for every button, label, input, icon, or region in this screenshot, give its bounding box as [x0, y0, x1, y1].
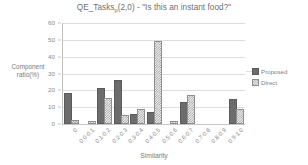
x-axis-tick-label: 0.1-0.2 [94, 127, 111, 144]
bar-chart: QE_Tasksp(2,0) - "Is this an instant foo… [0, 0, 308, 165]
legend-label: Direct [261, 79, 277, 86]
x-axis-tick-label: 0.4-0.5 [144, 127, 161, 144]
chart-title-main: QE_Tasks [77, 3, 115, 12]
bar-direct [187, 95, 195, 124]
bar-group [80, 23, 97, 124]
chart-title-rest: (2,0) - "Is this an instant food?" [118, 3, 232, 12]
bar-group [96, 23, 113, 124]
bar-group [162, 23, 179, 124]
chart-legend: ProposedDirect [252, 66, 306, 88]
x-axis-tick-label: 0.6-0.7 [177, 127, 194, 144]
legend-label: Proposed [261, 68, 288, 75]
bar-direct [236, 109, 244, 124]
x-axis-tick-label: 0.0-0.1 [78, 127, 95, 144]
y-axis-tick-mark [58, 39, 61, 40]
x-axis-ticks: 00.0-0.10.1-0.20.2-0.30.3-0.40.4-0.50.5-… [63, 126, 245, 150]
bar-direct [137, 109, 145, 124]
bar-direct [88, 121, 96, 124]
y-axis-tick-label: 10 [48, 104, 55, 110]
bar-group [195, 23, 212, 124]
y-axis-tick-label: 50 [48, 37, 55, 43]
bar-group [146, 23, 163, 124]
x-axis-title: Similarity [63, 152, 245, 159]
bar-series-container [63, 23, 245, 124]
legend-swatch-icon [252, 79, 259, 86]
legend-item-proposed[interactable]: Proposed [252, 66, 306, 77]
bar-group [129, 23, 146, 124]
bar-group [228, 23, 245, 124]
y-axis-tick-mark [58, 90, 61, 91]
y-axis-tick-mark [58, 23, 61, 24]
y-axis-tick-label: 60 [48, 20, 55, 26]
gridline [63, 124, 245, 125]
bar-group [179, 23, 196, 124]
bar-direct [71, 120, 79, 124]
y-axis-tick-label: 40 [48, 54, 55, 60]
y-axis-tick-label: 30 [48, 70, 55, 76]
x-axis-tick-label: 0.7-0.8 [194, 127, 211, 144]
bar-group [212, 23, 229, 124]
legend-item-direct[interactable]: Direct [252, 77, 306, 88]
y-axis-tick-mark [58, 73, 61, 74]
legend-swatch-icon [252, 68, 259, 75]
bar-direct [104, 98, 112, 124]
bar-direct [154, 41, 162, 124]
y-axis-ticks: 0102030405060 [0, 0, 63, 165]
x-axis-tick-label: 0.9-1.0 [227, 127, 244, 144]
y-axis-tick-label: 20 [48, 87, 55, 93]
bar-group [63, 23, 80, 124]
y-axis-tick-mark [58, 107, 61, 108]
x-axis-tick-label: 0.5-0.6 [161, 127, 178, 144]
y-axis-tick-mark [58, 56, 61, 57]
bar-group [113, 23, 130, 124]
bar-direct [170, 121, 178, 124]
x-axis-tick-label: 0.2-0.3 [111, 127, 128, 144]
bar-direct [121, 115, 129, 124]
plot-area [63, 23, 245, 124]
x-axis-tick-label: 0.3-0.4 [127, 127, 144, 144]
x-axis-tick-label: 0.8-0.9 [210, 127, 227, 144]
x-axis-tick-label: 0 [72, 127, 79, 134]
y-axis-tick-label: 0 [52, 121, 55, 127]
y-axis-tick-mark [58, 124, 61, 125]
